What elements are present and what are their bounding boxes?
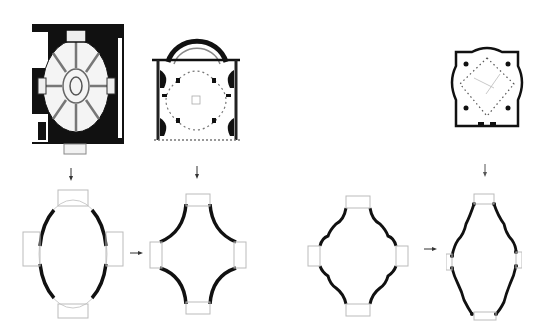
oval-schema-drawing (18, 186, 128, 322)
lobed-diamond-schema-drawing (306, 192, 410, 320)
schema-elongated-lobed (446, 190, 522, 322)
schema-cross-curved (148, 190, 248, 318)
arrow-right-icon (130, 250, 144, 256)
arrow-down-icon (194, 166, 200, 180)
arrow-down-icon (68, 168, 74, 182)
plan-octagonal-church (444, 44, 530, 134)
quatrefoil-church-plan-drawing (146, 30, 246, 150)
arrow-down-icon (482, 164, 488, 178)
oval-church-plan-drawing (24, 18, 128, 158)
plan-quatrefoil-church (146, 30, 246, 150)
elongated-lobed-schema-drawing (446, 190, 522, 322)
arrow-down-2 (194, 166, 200, 180)
plan-oval-church (24, 18, 128, 158)
cross-curved-schema-drawing (148, 190, 248, 318)
arrow-down-1 (68, 168, 74, 182)
arrow-right-icon (424, 246, 438, 252)
arrow-right-2 (424, 246, 438, 252)
schema-oval (18, 186, 128, 322)
octagonal-church-plan-drawing (444, 44, 530, 134)
schema-lobed-diamond (306, 192, 410, 320)
arrow-down-3 (482, 164, 488, 178)
arrow-right-1 (130, 250, 144, 256)
